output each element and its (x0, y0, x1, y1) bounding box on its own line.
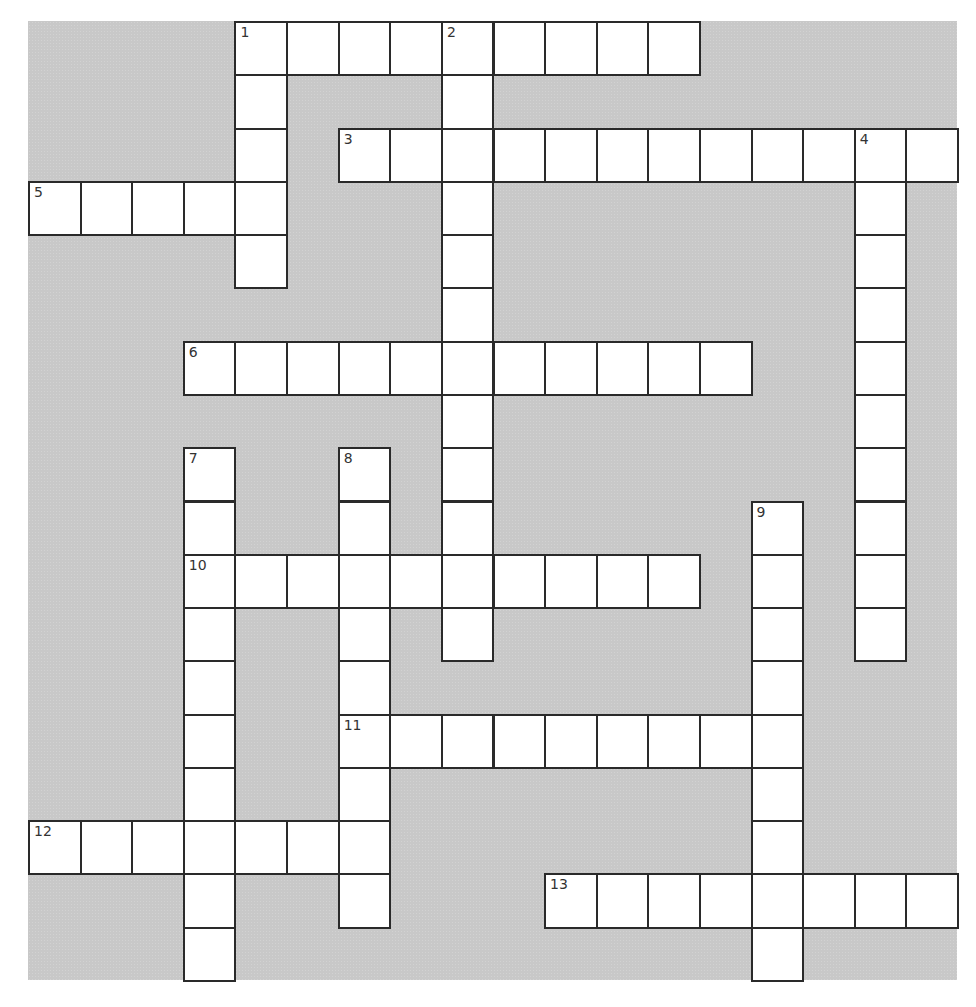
crossword-cell[interactable] (338, 501, 392, 556)
crossword-cell[interactable] (854, 554, 908, 609)
crossword-cell[interactable] (751, 927, 805, 982)
crossword-cell[interactable] (441, 341, 495, 396)
crossword-cell[interactable]: 7 (183, 447, 237, 502)
crossword-cell[interactable] (854, 394, 908, 449)
crossword-cell[interactable] (544, 128, 598, 183)
crossword-cell[interactable] (183, 767, 237, 822)
crossword-cell[interactable] (183, 927, 237, 982)
crossword-cell[interactable] (234, 820, 288, 875)
crossword-cell[interactable] (751, 767, 805, 822)
crossword-cell[interactable] (183, 714, 237, 769)
crossword-cell[interactable] (544, 21, 598, 76)
crossword-cell[interactable] (596, 873, 650, 928)
crossword-cell[interactable] (234, 128, 288, 183)
crossword-cell[interactable] (647, 873, 701, 928)
crossword-cell[interactable]: 3 (338, 128, 392, 183)
crossword-cell[interactable] (596, 554, 650, 609)
crossword-cell[interactable] (493, 714, 547, 769)
crossword-cell[interactable] (286, 554, 340, 609)
crossword-cell[interactable] (234, 181, 288, 236)
crossword-cell[interactable] (441, 287, 495, 342)
crossword-cell[interactable]: 2 (441, 21, 495, 76)
crossword-cell[interactable] (441, 714, 495, 769)
crossword-cell[interactable] (338, 767, 392, 822)
crossword-cell[interactable] (286, 820, 340, 875)
crossword-cell[interactable]: 12 (28, 820, 82, 875)
crossword-cell[interactable] (647, 554, 701, 609)
crossword-cell[interactable] (854, 341, 908, 396)
crossword-cell[interactable] (699, 714, 753, 769)
crossword-cell[interactable]: 8 (338, 447, 392, 502)
crossword-cell[interactable] (854, 607, 908, 662)
crossword-cell[interactable] (596, 128, 650, 183)
crossword-cell[interactable] (854, 447, 908, 502)
crossword-cell[interactable] (493, 128, 547, 183)
crossword-cell[interactable] (854, 234, 908, 289)
crossword-cell[interactable]: 13 (544, 873, 598, 928)
crossword-cell[interactable] (905, 128, 959, 183)
crossword-cell[interactable] (647, 714, 701, 769)
crossword-cell[interactable] (234, 74, 288, 129)
crossword-cell[interactable] (441, 234, 495, 289)
crossword-cell[interactable] (596, 714, 650, 769)
crossword-cell[interactable] (389, 341, 443, 396)
crossword-cell[interactable] (493, 341, 547, 396)
crossword-cell[interactable]: 11 (338, 714, 392, 769)
crossword-cell[interactable] (441, 501, 495, 556)
crossword-cell[interactable] (647, 21, 701, 76)
crossword-cell[interactable]: 6 (183, 341, 237, 396)
crossword-cell[interactable] (699, 873, 753, 928)
crossword-cell[interactable] (854, 181, 908, 236)
crossword-cell[interactable] (183, 873, 237, 928)
crossword-cell[interactable] (544, 341, 598, 396)
crossword-cell[interactable] (183, 501, 237, 556)
crossword-cell[interactable] (699, 128, 753, 183)
crossword-cell[interactable] (441, 74, 495, 129)
crossword-cell[interactable]: 9 (751, 501, 805, 556)
crossword-cell[interactable] (441, 607, 495, 662)
crossword-cell[interactable] (131, 181, 185, 236)
crossword-cell[interactable]: 5 (28, 181, 82, 236)
crossword-cell[interactable] (389, 128, 443, 183)
crossword-cell[interactable] (647, 128, 701, 183)
crossword-cell[interactable] (751, 554, 805, 609)
crossword-cell[interactable] (751, 873, 805, 928)
crossword-cell[interactable] (751, 820, 805, 875)
crossword-cell[interactable] (389, 714, 443, 769)
crossword-cell[interactable] (183, 607, 237, 662)
crossword-cell[interactable] (80, 181, 134, 236)
crossword-cell[interactable] (544, 714, 598, 769)
crossword-cell[interactable] (802, 128, 856, 183)
crossword-cell[interactable]: 4 (854, 128, 908, 183)
crossword-cell[interactable] (183, 820, 237, 875)
crossword-cell[interactable] (647, 341, 701, 396)
crossword-cell[interactable] (338, 554, 392, 609)
crossword-cell[interactable] (389, 554, 443, 609)
crossword-cell[interactable] (441, 447, 495, 502)
crossword-cell[interactable] (596, 341, 650, 396)
crossword-cell[interactable] (234, 234, 288, 289)
crossword-cell[interactable] (389, 21, 443, 76)
crossword-cell[interactable] (286, 341, 340, 396)
crossword-cell[interactable] (493, 21, 547, 76)
crossword-cell[interactable] (131, 820, 185, 875)
crossword-cell[interactable] (905, 873, 959, 928)
crossword-cell[interactable] (441, 128, 495, 183)
crossword-cell[interactable] (338, 341, 392, 396)
crossword-cell[interactable] (493, 554, 547, 609)
crossword-cell[interactable] (854, 873, 908, 928)
crossword-cell[interactable] (286, 21, 340, 76)
crossword-cell[interactable] (338, 607, 392, 662)
crossword-cell[interactable] (751, 660, 805, 715)
crossword-cell[interactable] (854, 287, 908, 342)
crossword-cell[interactable] (441, 394, 495, 449)
crossword-cell[interactable] (183, 660, 237, 715)
crossword-cell[interactable]: 10 (183, 554, 237, 609)
crossword-cell[interactable] (854, 501, 908, 556)
crossword-cell[interactable] (751, 607, 805, 662)
crossword-cell[interactable] (441, 181, 495, 236)
crossword-cell[interactable] (441, 554, 495, 609)
crossword-cell[interactable] (751, 128, 805, 183)
crossword-cell[interactable] (751, 714, 805, 769)
crossword-cell[interactable] (338, 873, 392, 928)
